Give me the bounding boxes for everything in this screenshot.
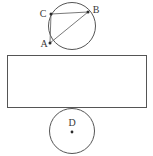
rectangle-shape bbox=[8, 56, 147, 108]
segment-c-to-b bbox=[51, 12, 88, 14]
segment-a-to-b bbox=[50, 12, 88, 43]
geometry-figure: C B A D bbox=[0, 0, 153, 156]
label-point-b: B bbox=[93, 4, 100, 15]
point-a-marker bbox=[49, 42, 52, 45]
label-point-c: C bbox=[40, 8, 47, 19]
label-point-a: A bbox=[40, 38, 48, 49]
label-point-d: D bbox=[68, 117, 75, 128]
point-c-marker bbox=[50, 13, 53, 16]
point-d-center-marker bbox=[71, 131, 74, 134]
top-circle-shape bbox=[49, 3, 96, 50]
point-b-marker bbox=[87, 11, 90, 14]
geometry-diagram-canvas: C B A D bbox=[0, 0, 153, 156]
